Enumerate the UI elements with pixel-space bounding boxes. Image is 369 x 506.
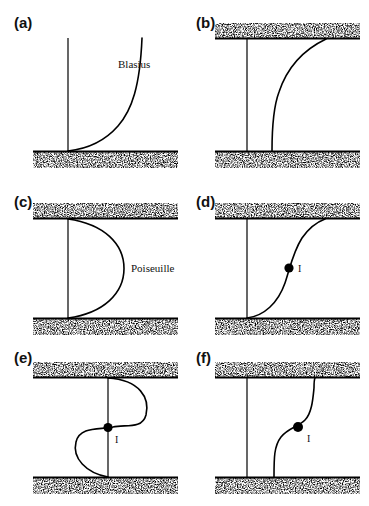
- panel-d-inflection-point: [284, 263, 293, 272]
- panel-e-bottom-wall: [33, 478, 178, 495]
- panel-e-top-wall: [33, 362, 178, 378]
- panel-c-profile-curve: [68, 219, 124, 318]
- stipple-hatching: [33, 478, 178, 494]
- stipple-hatching: [215, 152, 360, 168]
- stipple-hatching: [33, 362, 178, 377]
- stipple-hatching: [33, 152, 178, 168]
- panel-b: (b): [196, 14, 360, 168]
- stipple-hatching: [215, 23, 360, 38]
- stipple-hatching: [215, 478, 360, 494]
- stipple-hatching: [33, 319, 178, 335]
- stipple-hatching: [215, 203, 360, 218]
- panel-c-top-wall: [33, 203, 178, 219]
- panel-e-inflection-point: [103, 423, 112, 432]
- panel-b-bottom-wall: [215, 152, 360, 169]
- panel-b-top-wall: [215, 23, 360, 39]
- stipple-hatching: [215, 319, 360, 335]
- panel-c-annotation: Poiseuille: [131, 262, 175, 274]
- panel-a-profile-curve: [68, 38, 142, 151]
- panel-d-top-wall: [215, 203, 360, 219]
- panel-a: (a) Blasius: [14, 14, 178, 168]
- panel-e-inflection-label: I: [115, 434, 118, 445]
- panel-f: (f) I: [196, 349, 360, 494]
- panel-d-bottom-wall: [215, 319, 360, 336]
- panel-b-profile-curve: [272, 39, 326, 151]
- panel-f-label: (f): [196, 349, 211, 366]
- panel-e-label: (e): [14, 349, 32, 366]
- panel-a-bottom-wall: [33, 152, 178, 169]
- panel-f-inflection-point: [293, 422, 303, 432]
- panel-d-inflection-label: I: [298, 263, 301, 274]
- velocity-profiles-figure: (a) Blasius (b) (c): [0, 0, 369, 506]
- panel-d: (d) I: [196, 193, 360, 335]
- panel-a-label: (a): [14, 14, 32, 31]
- panel-b-label: (b): [196, 14, 215, 31]
- panel-c: (c) Poiseuille: [14, 193, 178, 335]
- stipple-hatching: [33, 203, 178, 218]
- panel-a-annotation: Blasius: [118, 58, 150, 70]
- panel-e: (e) I: [14, 349, 178, 494]
- panel-d-label: (d): [196, 193, 215, 210]
- panel-f-inflection-label: I: [307, 433, 310, 444]
- stipple-hatching: [215, 362, 360, 377]
- panel-f-bottom-wall: [215, 478, 360, 495]
- panel-c-label: (c): [14, 193, 32, 210]
- panel-f-top-wall: [215, 362, 360, 378]
- panel-c-bottom-wall: [33, 319, 178, 336]
